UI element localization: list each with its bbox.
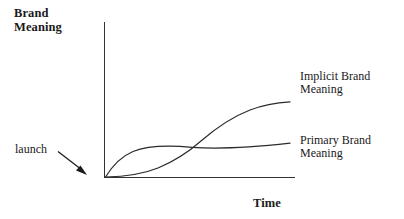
implicit-brand-meaning — [106, 102, 291, 177]
primary-brand-meaning — [106, 143, 291, 177]
implicit-brand-meaning-label: Implicit Brand Meaning — [300, 70, 370, 97]
curves-group — [105, 102, 290, 177]
launch-arrow-group — [58, 152, 87, 176]
chart-canvas: Brand Meaning Time launch Implicit Brand… — [0, 0, 404, 219]
y-axis-title: Brand Meaning — [14, 6, 62, 34]
x-axis-title: Time — [253, 196, 281, 210]
launch-annotation-label: launch — [15, 143, 47, 156]
primary-brand-meaning-label: Primary Brand Meaning — [300, 134, 371, 161]
launch-arrow-shaft — [58, 152, 82, 171]
axes-group — [104, 22, 295, 178]
